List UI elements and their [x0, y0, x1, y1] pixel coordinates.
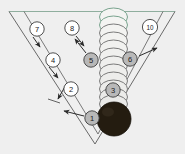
callout-marker-2[interactable]: 2 [64, 82, 78, 96]
diagram-canvas: 1 2 3 4 5 6 7 [0, 0, 185, 154]
callout-circle-2 [64, 82, 78, 96]
callout-circle-7 [30, 22, 44, 36]
callout-marker-10[interactable]: 10 [142, 19, 157, 34]
callout-circle-8 [65, 21, 79, 35]
callout-circle-10 [142, 19, 157, 34]
callout-marker-1[interactable]: 1 [85, 111, 99, 125]
callout-marker-7[interactable]: 7 [30, 22, 44, 36]
callout-circle-1 [85, 111, 99, 125]
dark-sphere [97, 102, 131, 136]
v-trough-stacked-disc-diagram: 1 2 3 4 5 6 7 [0, 0, 185, 154]
callout-marker-4[interactable]: 4 [46, 53, 60, 67]
callout-marker-8[interactable]: 8 [65, 21, 79, 35]
callout-circle-5 [84, 53, 98, 67]
callout-marker-6[interactable]: 6 [123, 52, 137, 66]
callout-circle-6 [123, 52, 137, 66]
callout-marker-3[interactable]: 3 [106, 83, 120, 97]
dark-sphere-highlight [102, 108, 114, 117]
callout-circle-3 [106, 83, 120, 97]
callout-circle-4 [46, 53, 60, 67]
callout-marker-5[interactable]: 5 [84, 53, 98, 67]
